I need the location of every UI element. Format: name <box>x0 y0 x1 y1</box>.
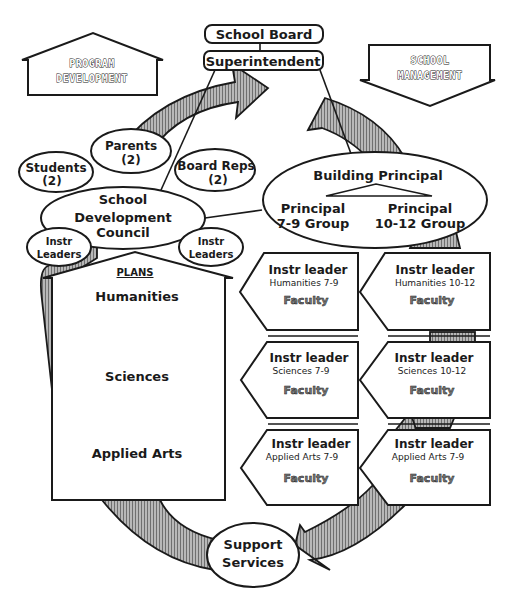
plans-heading: PLANS <box>116 267 153 278</box>
dept-sciences-7-9[interactable]: Instr leader Sciences 7-9 Faculty <box>241 342 358 424</box>
parents-ellipse[interactable]: Parents (2) <box>91 129 171 173</box>
instr-leaders-right-ellipse[interactable]: Instr Leaders <box>179 228 243 266</box>
building-principal-label: Building Principal <box>313 168 442 183</box>
students-ellipse[interactable]: Students (2) <box>19 152 93 192</box>
board-reps-ellipse[interactable]: Board Reps (2) <box>175 149 255 191</box>
dept-faculty-label: Faculty <box>410 294 455 307</box>
plan-sciences: Sciences <box>105 369 169 384</box>
dept-leader-label: Instr leader <box>272 437 351 451</box>
school-label: SCHOOL <box>410 55 449 66</box>
building-principal-ellipse[interactable]: Building Principal Principal 7-9 Group P… <box>263 152 487 248</box>
dept-subject-label: Applied Arts 7-9 <box>392 452 465 462</box>
instr-leaders-left-line-1: Instr <box>46 236 73 247</box>
support-label: Support <box>224 537 283 552</box>
dept-leader-label: Instr leader <box>396 263 475 277</box>
instr-leaders-right-line-1: Instr <box>198 236 225 247</box>
board-reps-count: (2) <box>208 173 227 187</box>
board-reps-label: Board Reps <box>177 159 254 173</box>
dept-humanities-10-12[interactable]: Instr leader Humanities 10-12 Faculty <box>360 253 490 336</box>
principal-10-12-label: Principal <box>388 201 452 216</box>
instr-leaders-left-ellipse[interactable]: Instr Leaders <box>27 228 91 266</box>
dept-faculty-label: Faculty <box>284 472 329 485</box>
parents-label: Parents <box>105 139 157 153</box>
dept-subject-label: Applied Arts 7-9 <box>266 452 339 462</box>
school-organization-diagram: School Board Superintendent PROGRAM DEVE… <box>0 0 510 602</box>
students-count: (2) <box>42 174 61 188</box>
school-management-banner: SCHOOL MANAGEMENT <box>360 45 495 106</box>
principal-10-12-group: 10-12 Group <box>375 216 466 231</box>
dept-leader-label: Instr leader <box>395 351 474 365</box>
dept-faculty-label: Faculty <box>410 384 455 397</box>
dept-sciences-10-12[interactable]: Instr leader Sciences 10-12 Faculty <box>360 342 490 424</box>
dept-faculty-label: Faculty <box>284 384 329 397</box>
dept-leader-label: Instr leader <box>270 351 349 365</box>
dept-applied-arts-7-9-left[interactable]: Instr leader Applied Arts 7-9 Faculty <box>241 430 358 505</box>
arc-bottom-left <box>102 500 218 570</box>
superintendent-box[interactable]: Superintendent <box>204 51 323 70</box>
instr-leaders-left-line-2: Leaders <box>37 249 82 260</box>
school-board-box[interactable]: School Board <box>205 25 323 43</box>
superintendent-label: Superintendent <box>206 54 321 69</box>
dept-subject-label: Humanities 10-12 <box>395 278 475 288</box>
dept-applied-arts-7-9-right[interactable]: Instr leader Applied Arts 7-9 Faculty <box>360 430 490 505</box>
principal-7-9-label: Principal <box>281 201 345 216</box>
support-services-ellipse[interactable]: Support Services <box>207 523 299 587</box>
council-line-1: School <box>99 192 148 207</box>
dept-subject-label: Humanities 7-9 <box>270 278 339 288</box>
dept-faculty-label: Faculty <box>284 294 329 307</box>
plan-humanities: Humanities <box>95 289 179 304</box>
dept-leader-label: Instr leader <box>269 263 348 277</box>
school-board-label: School Board <box>216 27 313 42</box>
dept-faculty-label: Faculty <box>410 472 455 485</box>
services-label: Services <box>222 555 284 570</box>
plans-house[interactable]: PLANS Humanities Sciences Applied Arts <box>43 252 233 500</box>
dept-subject-label: Sciences 10-12 <box>398 366 467 376</box>
dept-subject-label: Sciences 7-9 <box>272 366 329 376</box>
instr-leaders-right-line-2: Leaders <box>189 249 234 260</box>
program-label: PROGRAM <box>69 58 115 69</box>
council-line-3: Council <box>96 225 150 240</box>
dept-leader-label: Instr leader <box>395 437 474 451</box>
plan-applied-arts: Applied Arts <box>92 446 183 461</box>
dept-humanities-7-9[interactable]: Instr leader Humanities 7-9 Faculty <box>240 253 358 336</box>
principal-7-9-group: 7-9 Group <box>277 216 350 231</box>
students-label: Students <box>25 161 86 175</box>
council-to-principal-line <box>205 210 262 218</box>
program-development-banner: PROGRAM DEVELOPMENT <box>22 33 163 95</box>
management-label: MANAGEMENT <box>397 70 462 81</box>
council-line-2: Development <box>74 210 171 225</box>
development-label: DEVELOPMENT <box>56 73 128 84</box>
parents-count: (2) <box>121 153 140 167</box>
